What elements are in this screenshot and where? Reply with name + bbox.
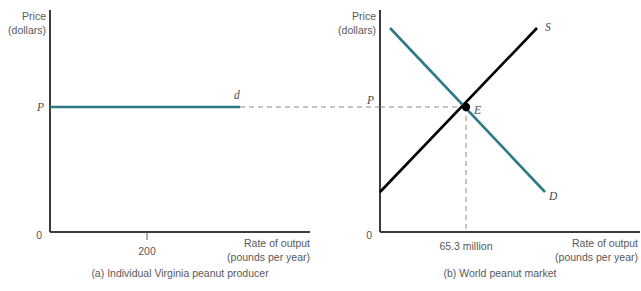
panel-a-origin-label: 0: [36, 229, 42, 241]
panel-b-origin-label: 0: [366, 229, 372, 241]
panel-a-x-tick-label-200: 200: [138, 245, 156, 257]
panel-a-group: Price (dollars) 0 P d 200 Rate of output…: [8, 10, 380, 279]
panel-a-price-label: P: [36, 101, 44, 113]
panel-a-y-axis-label-line2: (dollars): [8, 24, 46, 36]
panel-b-y-axis-label-line2: (dollars): [338, 24, 376, 36]
panel-a-demand-label: d: [234, 89, 240, 101]
panel-b-supply-curve: [380, 28, 537, 192]
panel-b-equilibrium-label: E: [473, 104, 481, 116]
panel-b-y-axis-label-line1: Price: [352, 10, 376, 22]
panel-a-x-axis-label-line1: Rate of output: [244, 237, 310, 249]
panel-b-supply-label: S: [545, 21, 551, 33]
panel-a-y-axis-label-line1: Price: [22, 10, 46, 22]
panel-b-group: Price (dollars) 0 P S D E 65.3 million R…: [338, 10, 640, 279]
panel-a-caption: (a) Individual Virginia peanut producer: [91, 267, 269, 279]
economics-diagram-svg: Price (dollars) 0 P d 200 Rate of output…: [0, 0, 641, 291]
panel-b-x-axis-label-line1: Rate of output: [572, 237, 638, 249]
figure-root: Price (dollars) 0 P d 200 Rate of output…: [0, 0, 641, 291]
panel-a-x-axis-label-line2: (pounds per year): [227, 251, 310, 263]
panel-b-x-tick-label-quantity: 65.3 million: [439, 240, 492, 252]
panel-b-price-label: P: [366, 94, 374, 106]
panel-b-equilibrium-dot: [462, 103, 470, 111]
panel-b-demand-label: D: [548, 190, 558, 202]
panel-b-caption: (b) World peanut market: [443, 267, 556, 279]
panel-b-x-axis-label-line2: (pounds per year): [555, 251, 638, 263]
